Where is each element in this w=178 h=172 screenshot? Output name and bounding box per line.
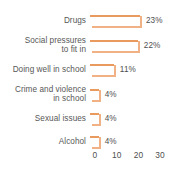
bar-shadow bbox=[92, 26, 142, 28]
bar-crime-and-violence bbox=[90, 89, 99, 100]
x-axis-tick: 10 bbox=[112, 150, 122, 160]
bar-shadow bbox=[92, 51, 140, 53]
bar-shadow bbox=[92, 124, 101, 126]
bar-zone: 22% bbox=[90, 32, 178, 58]
bar-wrap: 4% bbox=[90, 89, 117, 100]
value-label: 11% bbox=[120, 65, 136, 74]
bar-sexual-issues bbox=[90, 113, 99, 124]
value-label: 4% bbox=[105, 114, 117, 123]
x-axis-tick: 20 bbox=[134, 150, 144, 160]
value-label: 4% bbox=[105, 137, 117, 146]
bar-zone: 4% bbox=[90, 107, 178, 130]
category-label: Social pressures to fit in bbox=[0, 36, 90, 55]
bar-zone: 23% bbox=[90, 9, 178, 32]
bar-wrap: 22% bbox=[90, 40, 160, 51]
category-label: Doing well in school bbox=[0, 65, 90, 74]
value-label: 4% bbox=[105, 90, 117, 99]
chart-rows: Drugs 23% Social pressures to fit in 22% bbox=[0, 9, 178, 153]
chart-row-sexual-issues: Sexual issues 4% bbox=[0, 107, 178, 130]
bar-alcohol bbox=[90, 136, 99, 147]
horizontal-bar-chart: Drugs 23% Social pressures to fit in 22% bbox=[0, 0, 178, 172]
bar-wrap: 4% bbox=[90, 136, 117, 147]
category-label: Sexual issues bbox=[0, 114, 90, 123]
bar-shadow bbox=[92, 147, 101, 149]
chart-row-social-pressures: Social pressures to fit in 22% bbox=[0, 32, 178, 58]
bar-shadow bbox=[92, 100, 101, 102]
bar-zone: 11% bbox=[90, 58, 178, 81]
x-axis-tick: 0 bbox=[93, 150, 98, 160]
bar-shadow bbox=[92, 75, 116, 77]
bar-wrap: 23% bbox=[90, 15, 163, 26]
bar-wrap: 11% bbox=[90, 64, 136, 75]
x-axis-tick: 30 bbox=[155, 150, 165, 160]
category-label: Alcohol bbox=[0, 137, 90, 146]
bar-social-pressures bbox=[90, 40, 138, 51]
x-axis: 0 10 20 30 bbox=[90, 150, 178, 164]
category-label: Drugs bbox=[0, 16, 90, 25]
chart-row-crime-and-violence: Crime and violence in school 4% bbox=[0, 81, 178, 107]
bar-drugs bbox=[90, 15, 140, 26]
bar-doing-well-in-school bbox=[90, 64, 114, 75]
chart-row-drugs: Drugs 23% bbox=[0, 9, 178, 32]
chart-row-doing-well-in-school: Doing well in school 11% bbox=[0, 58, 178, 81]
value-label: 22% bbox=[144, 41, 161, 50]
bar-zone: 4% bbox=[90, 81, 178, 107]
bar-wrap: 4% bbox=[90, 113, 117, 124]
value-label: 23% bbox=[146, 16, 163, 25]
category-label: Crime and violence in school bbox=[0, 85, 90, 104]
